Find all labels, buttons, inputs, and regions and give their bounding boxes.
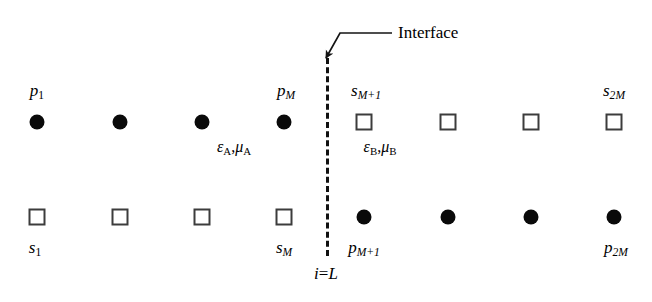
pressure-node-marker bbox=[30, 115, 45, 130]
label-base: s bbox=[29, 238, 36, 257]
material-properties-label-region-a: εA,μA bbox=[217, 139, 251, 157]
stress-node-marker bbox=[440, 114, 457, 131]
label-subscript: M+1 bbox=[358, 89, 381, 102]
stress-node-marker bbox=[606, 114, 623, 131]
leader-path bbox=[326, 33, 392, 58]
label-subscript: M bbox=[285, 89, 295, 102]
permeability-symbol: μ bbox=[235, 138, 243, 155]
label-p-m: pM bbox=[277, 82, 295, 102]
pressure-node-marker bbox=[277, 115, 292, 130]
interface-dashed-line bbox=[326, 58, 329, 256]
pressure-node-marker bbox=[357, 210, 372, 225]
interface-coordinate-label: i=L bbox=[314, 265, 338, 282]
material-properties-label-region-b: εB,μB bbox=[364, 139, 397, 157]
label-base: s bbox=[276, 238, 283, 257]
label-subscript: M bbox=[283, 246, 293, 259]
stress-node-marker bbox=[523, 114, 540, 131]
label-p-1: p1 bbox=[30, 82, 44, 102]
pressure-node-marker bbox=[195, 115, 210, 130]
permeability-subscript: B bbox=[389, 145, 396, 157]
stress-node-marker bbox=[356, 114, 373, 131]
interface-annotation-label: Interface bbox=[398, 24, 458, 41]
label-s-m: sM bbox=[276, 239, 292, 259]
label-subscript: 1 bbox=[38, 89, 44, 102]
label-base: p bbox=[604, 238, 613, 257]
label-subscript: M+1 bbox=[357, 246, 380, 259]
pressure-node-marker bbox=[441, 210, 456, 225]
permittivity-subscript: B bbox=[370, 145, 377, 157]
label-subscript: 2M bbox=[610, 89, 625, 102]
permeability-subscript: A bbox=[243, 145, 251, 157]
coordinate-value: L bbox=[328, 264, 337, 283]
permittivity-subscript: A bbox=[223, 145, 231, 157]
label-subscript: 2M bbox=[613, 246, 628, 259]
label-base: p bbox=[30, 81, 39, 100]
label-base: s bbox=[603, 81, 610, 100]
pressure-node-marker bbox=[524, 210, 539, 225]
label-base: s bbox=[351, 81, 358, 100]
coordinate-equals: = bbox=[319, 264, 329, 283]
stress-node-marker bbox=[112, 209, 129, 226]
label-base: p bbox=[277, 81, 286, 100]
label-subscript: 1 bbox=[35, 246, 41, 259]
pressure-node-marker bbox=[607, 210, 622, 225]
permeability-symbol: μ bbox=[381, 138, 389, 155]
interface-lattice-diagram: p1pMsM+1s2Ms1sMpM+1p2M εA,μAεB,μB i=L In… bbox=[0, 0, 652, 302]
label-s-1: s1 bbox=[29, 239, 41, 259]
stress-node-marker bbox=[29, 209, 46, 226]
label-base: p bbox=[348, 238, 357, 257]
pressure-node-marker bbox=[113, 115, 128, 130]
label-s-m-plus-1: sM+1 bbox=[351, 82, 381, 102]
label-p-2m: p2M bbox=[604, 239, 628, 259]
stress-node-marker bbox=[194, 209, 211, 226]
label-s-2m: s2M bbox=[603, 82, 625, 102]
stress-node-marker bbox=[276, 209, 293, 226]
label-p-m-plus-1: pM+1 bbox=[348, 239, 380, 259]
